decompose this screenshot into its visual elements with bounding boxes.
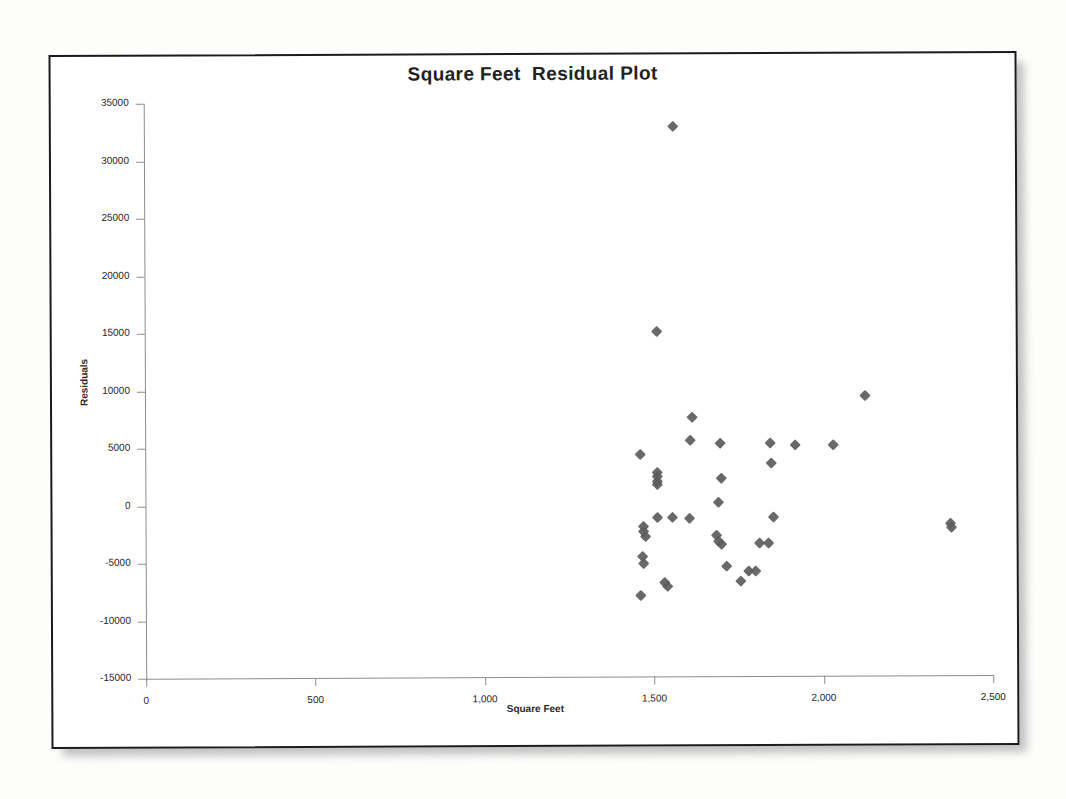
y-axis-tick: [137, 506, 145, 507]
y-axis-tick: [136, 161, 144, 162]
y-axis-tick-label: 20000: [51, 269, 133, 280]
x-axis-title: Square Feet: [53, 701, 1017, 716]
y-axis-tick-label: 5000: [52, 442, 134, 453]
chart-title: Square Feet Residual Plot: [51, 61, 1015, 87]
x-axis-tick-label: 1,000: [450, 693, 520, 704]
chart-frame: Square Feet Residual Plot Residuals Squa…: [48, 51, 1019, 749]
x-axis-tick: [654, 676, 655, 684]
x-axis-tick: [146, 679, 147, 687]
y-axis-tick-label: 25000: [51, 212, 133, 223]
y-axis-tick-label: 0: [52, 499, 134, 510]
y-axis-tick: [137, 334, 145, 335]
y-axis-tick-label: 30000: [51, 154, 133, 165]
x-axis-tick-label: 2,500: [958, 691, 1028, 702]
x-axis-tick: [485, 677, 486, 685]
x-axis-tick: [316, 678, 317, 686]
y-axis-tick: [137, 449, 145, 450]
y-axis-tick-label: 35000: [51, 97, 133, 108]
x-axis-tick-label: 500: [281, 694, 351, 705]
x-axis-ticks: 05001,0001,5002,0002,500: [50, 53, 1014, 57]
y-axis-tick-label: 10000: [52, 384, 134, 395]
y-axis-tick-label: -5000: [53, 557, 135, 568]
y-axis-tick-label: -15000: [53, 672, 135, 683]
y-axis-title: Residuals: [78, 322, 90, 442]
x-axis-tick: [824, 676, 825, 684]
y-axis-tick: [136, 104, 144, 105]
y-axis-tick: [138, 564, 146, 565]
x-axis-tick-label: 0: [111, 695, 181, 706]
y-axis-tick: [136, 276, 144, 277]
scanned-page: Square Feet Residual Plot Residuals Squa…: [0, 0, 1066, 799]
y-axis-tick: [136, 219, 144, 220]
y-axis-ticks: -15000-10000-500005000100001500020000250…: [50, 53, 1014, 57]
y-axis-tick: [138, 621, 146, 622]
x-axis-tick-label: 2,000: [789, 692, 859, 703]
y-axis-tick-label: -10000: [53, 614, 135, 625]
y-axis-tick: [138, 679, 146, 680]
x-axis-tick: [993, 675, 994, 683]
plot-area: [144, 100, 994, 679]
y-axis-tick-label: 15000: [52, 327, 134, 338]
x-axis-tick-label: 1,500: [619, 692, 689, 703]
y-axis-tick: [137, 391, 145, 392]
